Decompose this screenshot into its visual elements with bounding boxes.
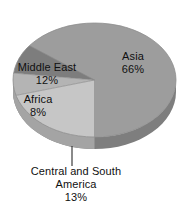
pie-chart-graphic	[0, 0, 186, 209]
pie-chart: Asia 66% Middle East 12% Africa 8% Centr…	[0, 0, 186, 209]
